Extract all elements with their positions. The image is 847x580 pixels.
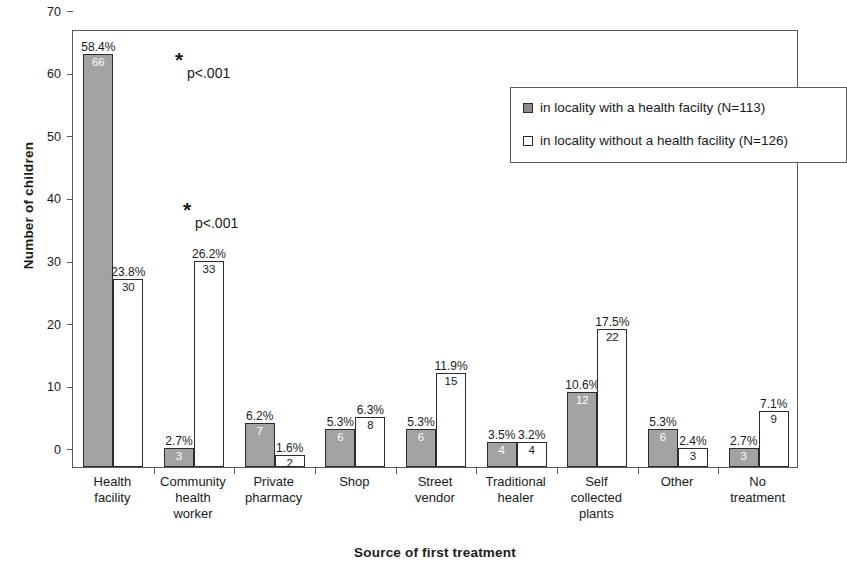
y-axis-tick-label: 20 <box>47 318 67 332</box>
bar: 43.5% <box>487 442 517 467</box>
bar-percent-label: 17.5% <box>595 316 629 328</box>
p-value-label: p<.001 <box>187 66 230 80</box>
plot-area: 010203040506070 6658.4%3023.8%32.7%3326.… <box>72 30 798 468</box>
bar-value-label: 6 <box>337 432 343 444</box>
y-axis-tick-label: 50 <box>47 130 67 144</box>
x-axis-category-label-line: Community <box>153 474 234 490</box>
bar: 65.3% <box>406 429 436 467</box>
y-axis-tick: 0 <box>54 440 73 458</box>
y-axis-tick: 60 <box>47 65 73 83</box>
bar: 86.3% <box>355 417 385 467</box>
bar: 43.2% <box>517 442 547 467</box>
x-axis-category-label-line: plants <box>556 506 637 522</box>
x-axis-category-label-line: Private <box>233 474 314 490</box>
bar-value-label: 66 <box>92 57 105 69</box>
x-axis-category-label: Shop <box>314 474 395 490</box>
x-axis-tick-mark <box>315 467 316 474</box>
y-axis-tick-label: 10 <box>47 380 67 394</box>
bar-value-label: 6 <box>418 432 424 444</box>
y-axis-tick-label: 30 <box>47 255 67 269</box>
x-axis-category-label: Other <box>637 474 718 490</box>
p-value-label: p<.001 <box>195 216 238 230</box>
bar-percent-label: 7.1% <box>760 398 787 410</box>
y-axis-tick: 30 <box>47 252 73 270</box>
y-axis-tick-mark <box>67 11 73 12</box>
bar-value-label: 4 <box>498 445 504 457</box>
x-axis-category-label-line: facility <box>72 490 153 506</box>
y-axis-tick-label: 40 <box>47 192 67 206</box>
y-axis-tick: 70 <box>47 2 73 20</box>
bar-value-label: 7 <box>256 426 262 438</box>
bar-value-label: 2 <box>286 458 292 470</box>
x-axis-category-label-line: collected <box>556 490 637 506</box>
bar: 32.7% <box>164 448 194 467</box>
y-axis-tick-label: 0 <box>54 443 67 457</box>
bar-value-label: 30 <box>122 282 135 294</box>
x-axis-tick-mark <box>396 467 397 474</box>
bar-value-label: 6 <box>660 432 666 444</box>
x-axis-category-label: Communityhealthworker <box>153 474 234 522</box>
x-axis-tick-mark <box>718 467 719 474</box>
bar-percent-label: 3.5% <box>488 429 515 441</box>
significance-star-icon: * <box>175 49 183 70</box>
bar: 3023.8% <box>113 279 143 467</box>
y-axis-tick: 10 <box>47 377 73 395</box>
bar: 32.7% <box>729 448 759 467</box>
legend-label-with-facility: in locality with a health facilty (N=113… <box>540 101 765 115</box>
bar-percent-label: 23.8% <box>111 266 145 278</box>
y-axis-tick-mark <box>67 324 73 325</box>
x-axis-category-label-line: Shop <box>314 474 395 490</box>
y-axis-tick-mark <box>67 262 73 263</box>
bar-percent-label: 2.7% <box>730 435 757 447</box>
y-axis-tick-mark <box>67 199 73 200</box>
y-axis-tick-mark <box>67 387 73 388</box>
x-axis-category-label-line: vendor <box>395 490 476 506</box>
bar: 1511.9% <box>436 373 466 467</box>
x-axis-category-label-line: Street <box>395 474 476 490</box>
bar-value-label: 3 <box>690 451 696 463</box>
bar-percent-label: 5.3% <box>327 416 354 428</box>
x-axis-tick-mark <box>476 467 477 474</box>
bar-value-label: 9 <box>770 414 776 426</box>
bar: 65.3% <box>648 429 678 467</box>
x-axis-category-label: Traditionalhealer <box>475 474 556 506</box>
bar-percent-label: 10.6% <box>565 379 599 391</box>
bar-percent-label: 5.3% <box>649 416 676 428</box>
legend-item-without-facility: in locality without a health facility (N… <box>523 130 834 152</box>
x-axis-category-label: Streetvendor <box>395 474 476 506</box>
y-axis-tick-label: 60 <box>47 67 67 81</box>
bar: 65.3% <box>325 429 355 467</box>
x-axis-category-label-line: pharmacy <box>233 490 314 506</box>
x-axis-category-label: Notreatment <box>717 474 798 506</box>
x-axis-category-label: Selfcollectedplants <box>556 474 637 522</box>
bar-percent-label: 5.3% <box>407 416 434 428</box>
bar: 3326.2% <box>194 261 224 467</box>
x-axis-tick-mark <box>638 467 639 474</box>
x-axis-tick-mark <box>234 467 235 474</box>
x-axis-category-label: Healthfacility <box>72 474 153 506</box>
legend-label-without-facility: in locality without a health facility (N… <box>540 134 788 148</box>
x-axis-tick-mark <box>154 467 155 474</box>
x-axis-title: Source of first treatment <box>72 545 798 560</box>
y-axis-tick: 40 <box>47 190 73 208</box>
bar: 1210.6% <box>567 392 597 467</box>
bar: 2217.5% <box>597 329 627 467</box>
bar-percent-label: 58.4% <box>81 41 115 53</box>
x-axis-category-label-line: worker <box>153 506 234 522</box>
legend-item-with-facility: in locality with a health facilty (N=113… <box>523 97 834 119</box>
y-axis-tick: 20 <box>47 315 73 333</box>
y-axis-tick: 50 <box>47 127 73 145</box>
bar-percent-label: 1.6% <box>276 442 303 454</box>
x-axis-category-label-line: Health <box>72 474 153 490</box>
bar-value-label: 4 <box>528 445 534 457</box>
y-axis-tick-mark <box>67 74 73 75</box>
y-axis-tick-label: 70 <box>47 5 67 19</box>
x-axis-category-label-line: No <box>717 474 798 490</box>
x-axis-category-label-line: Self <box>556 474 637 490</box>
x-axis-category-label: Privatepharmacy <box>233 474 314 506</box>
bar-percent-label: 3.2% <box>518 429 545 441</box>
bar-percent-label: 11.9% <box>434 360 467 372</box>
bar: 76.2% <box>245 423 275 467</box>
bar-value-label: 12 <box>576 395 589 407</box>
bar-value-label: 15 <box>445 376 458 388</box>
